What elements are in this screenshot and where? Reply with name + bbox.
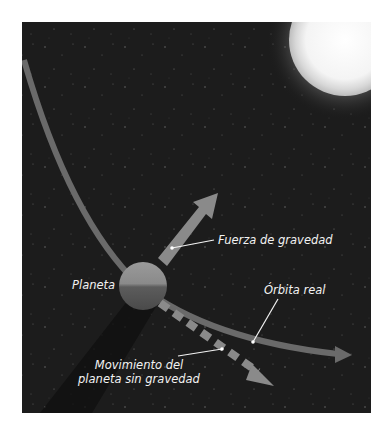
inertial-label: Movimiento del planeta sin gravedad <box>74 358 204 386</box>
gravity-label: Fuerza de gravedad <box>218 233 333 247</box>
planet <box>119 262 167 310</box>
inertial-label-line-2: planeta sin gravedad <box>74 372 204 386</box>
inertial-label-line-1: Movimiento del <box>74 358 204 372</box>
orbit-leader-dot <box>251 340 255 344</box>
inertial-leader-dot <box>220 347 224 351</box>
gravity-leader-dot <box>170 246 174 250</box>
orbit-label: Órbita real <box>264 283 326 297</box>
planet-label: Planeta <box>72 278 115 292</box>
diagram-canvas <box>22 22 371 413</box>
orbit-diagram: Fuerza de gravedad Planeta Órbita real M… <box>22 22 371 413</box>
